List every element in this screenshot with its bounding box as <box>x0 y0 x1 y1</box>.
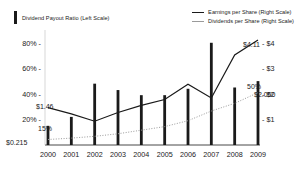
y-tick-left-60%: 60% - <box>22 64 41 73</box>
x-tick-2004: 2004 <box>133 150 149 159</box>
y-axis-right: - $1- $2- $3- $4 <box>259 0 299 169</box>
y-tick-right-$1: - $1 <box>262 115 274 124</box>
bar-2008 <box>233 88 236 146</box>
bar-2002 <box>93 84 96 145</box>
x-tick-2007: 2007 <box>203 150 219 159</box>
y-tick-left-80%: 80% - <box>22 38 41 47</box>
line-earnings-per-share <box>48 40 258 121</box>
x-tick-2005: 2005 <box>157 150 173 159</box>
y-tick-left-40%: 40% - <box>22 89 41 98</box>
x-tick-2000: 2000 <box>40 150 56 159</box>
x-tick-2002: 2002 <box>87 150 103 159</box>
x-tick-2009: 2009 <box>250 150 266 159</box>
dps-end-label: $2.050 <box>254 91 275 98</box>
x-tick-2003: 2003 <box>110 150 126 159</box>
bar-2003 <box>117 90 120 145</box>
dividend-payout-chart: Dividend Payout Ratio (Left Scale) Earni… <box>0 0 299 169</box>
dps-start-label: $0.215 <box>6 139 27 146</box>
x-tick-2006: 2006 <box>180 150 196 159</box>
bar-2005 <box>163 95 166 145</box>
y-tick-right-$4: - $4 <box>262 38 274 47</box>
bar-2004 <box>140 95 143 145</box>
eps-start-label: $1.46 <box>36 103 54 110</box>
y-tick-left-20%: 20% - <box>22 115 41 124</box>
x-tick-2008: 2008 <box>227 150 243 159</box>
x-tick-2001: 2001 <box>63 150 79 159</box>
y-tick-right-$3: - $3 <box>262 64 274 73</box>
x-axis-labels: 2000200120022003200420052006200720082009 <box>0 150 299 164</box>
payout-start-label: 15% <box>38 125 52 132</box>
bar-2007 <box>210 43 213 145</box>
bar-2006 <box>187 89 190 145</box>
payout-end-label: 50% <box>247 83 261 90</box>
eps-end-label: $4.11 <box>243 41 260 48</box>
bar-2001 <box>70 117 73 145</box>
